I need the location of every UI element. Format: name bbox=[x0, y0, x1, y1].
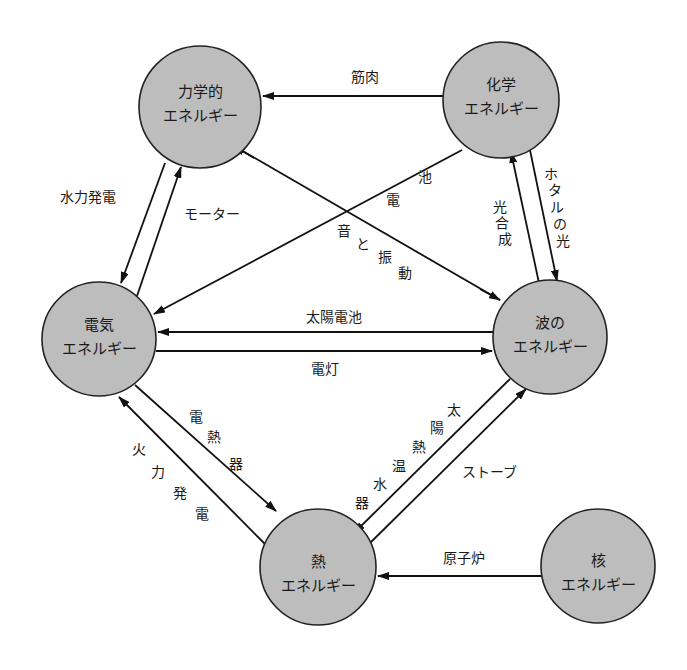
label-solar-cell: 太陽電池 bbox=[306, 309, 362, 325]
label-battery-char-1: 池 bbox=[418, 169, 432, 185]
label-swh-char-4: 温 bbox=[392, 458, 406, 474]
node-wave-energy: 波の エネルギー bbox=[493, 280, 607, 394]
label-swh-char-6: 器 bbox=[355, 495, 369, 511]
label-motor: モーター bbox=[184, 206, 240, 222]
arrow-motor bbox=[137, 167, 181, 296]
label-thermal-char-1: 火 bbox=[132, 441, 146, 457]
label-lamp: 電灯 bbox=[311, 361, 339, 377]
label-heater-char-2: 熱 bbox=[207, 429, 221, 445]
label-battery-char-2: 電 bbox=[386, 192, 400, 208]
node-heat-line1: 熱 bbox=[311, 553, 326, 571]
arrow-solar-water-heater bbox=[354, 379, 510, 533]
node-heat-energy: 熱 エネルギー bbox=[260, 509, 376, 625]
label-sound-char-1: 音 bbox=[337, 223, 351, 239]
arrow-heater bbox=[135, 385, 276, 511]
label-photosynthesis-char-3: 成 bbox=[498, 231, 512, 247]
node-electric-line1: 電気 bbox=[84, 316, 114, 334]
arrow-hydro bbox=[121, 163, 165, 283]
label-sound-char-3: 振 bbox=[378, 249, 392, 265]
node-mechanical-energy: 力学的 エネルギー bbox=[139, 46, 261, 168]
node-wave-line1: 波の bbox=[535, 314, 565, 332]
node-wave-line2: エネルギー bbox=[513, 338, 588, 356]
node-nuclear-energy: 核 エネルギー bbox=[541, 509, 655, 623]
node-chemical-line2: エネルギー bbox=[464, 100, 539, 118]
label-muscle: 筋肉 bbox=[351, 69, 379, 85]
label-hydro: 水力発電 bbox=[60, 189, 116, 205]
node-nuclear-line1: 核 bbox=[591, 552, 606, 570]
node-chemical-energy: 化学 エネルギー bbox=[443, 42, 559, 158]
label-firefly-char-4: の bbox=[553, 216, 567, 232]
label-reactor: 原子炉 bbox=[443, 550, 485, 566]
label-thermal-char-2: 力 bbox=[151, 464, 165, 480]
label-firefly-char-5: 光 bbox=[556, 233, 570, 249]
label-swh-char-2: 陽 bbox=[430, 420, 444, 436]
node-chemical-line1: 化学 bbox=[486, 76, 516, 94]
node-heat-line2: エネルギー bbox=[281, 577, 356, 595]
node-nuclear-line2: エネルギー bbox=[561, 576, 636, 594]
label-swh-char-3: 熱 bbox=[412, 439, 426, 455]
arrow-sound-vibration bbox=[234, 146, 500, 300]
label-firefly-char-3: ル bbox=[550, 199, 564, 215]
label-firefly-char-1: ホ bbox=[544, 166, 558, 182]
label-heater-char-1: 電 bbox=[189, 409, 203, 425]
energy-conversion-diagram: 筋肉 水力発電 モーター 池 電 音 と 振 動 光 合 成 ホ タ ル の 光… bbox=[0, 0, 687, 670]
label-stove: ストーブ bbox=[462, 464, 517, 480]
node-mechanical-line1: 力学的 bbox=[178, 83, 223, 101]
label-sound-char-2: と bbox=[356, 236, 370, 252]
node-electric-line2: エネルギー bbox=[62, 340, 137, 358]
label-thermal-char-4: 電 bbox=[195, 506, 209, 522]
arrow-battery bbox=[154, 150, 462, 314]
label-swh-char-5: 水 bbox=[373, 476, 387, 492]
label-photosynthesis-char-1: 光 bbox=[493, 199, 507, 215]
node-electric-energy: 電気 エネルギー bbox=[42, 282, 156, 396]
label-swh-char-1: 太 bbox=[447, 402, 461, 418]
label-photosynthesis-char-2: 合 bbox=[495, 215, 509, 231]
arrow-sound-vibration-head bbox=[480, 289, 500, 300]
label-sound-char-4: 動 bbox=[398, 265, 412, 281]
label-thermal-char-3: 発 bbox=[173, 485, 187, 501]
label-firefly-char-2: タ bbox=[548, 182, 562, 198]
node-mechanical-line2: エネルギー bbox=[163, 107, 238, 125]
label-heater-char-3: 器 bbox=[229, 456, 243, 472]
